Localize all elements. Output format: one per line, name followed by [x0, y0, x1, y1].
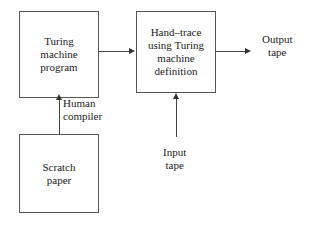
- connector-handtrace-to-output: [216, 51, 246, 52]
- box-line: machine: [20, 48, 98, 61]
- label-line: compiler: [63, 110, 102, 123]
- label-line: Input: [163, 146, 186, 159]
- box-turing-machine-program: Turing machine program: [19, 11, 99, 98]
- arrow-right-icon: [245, 48, 251, 54]
- arrow-right-icon: [129, 48, 135, 54]
- arrow-up-icon: [56, 94, 62, 100]
- box-scratch-paper-text: Scratch paper: [20, 161, 98, 187]
- box-turing-machine-program-text: Turing machine program: [20, 35, 98, 74]
- label-human-compiler: Human compiler: [63, 97, 102, 123]
- connector-scratch-to-program: [59, 98, 60, 134]
- label-line: Output: [262, 33, 293, 46]
- box-hand-trace: Hand–trace using Turing machine definiti…: [136, 11, 216, 93]
- box-line: Turing: [20, 35, 98, 48]
- box-line: machine: [137, 52, 215, 65]
- label-line: tape: [262, 46, 293, 59]
- box-line: Scratch: [20, 161, 98, 174]
- diagram-canvas: Turing machine program Hand–trace using …: [0, 0, 315, 225]
- box-line: program: [20, 61, 98, 74]
- label-line: tape: [163, 159, 186, 172]
- connector-program-to-handtrace: [99, 51, 130, 52]
- box-hand-trace-text: Hand–trace using Turing machine definiti…: [137, 26, 215, 78]
- box-line: paper: [20, 174, 98, 187]
- label-line: Human: [63, 97, 102, 110]
- label-input-tape: Input tape: [163, 146, 186, 172]
- arrow-up-icon: [173, 93, 179, 99]
- label-output-tape: Output tape: [262, 33, 293, 59]
- box-line: definition: [137, 65, 215, 78]
- box-line: using Turing: [137, 39, 215, 52]
- box-line: Hand–trace: [137, 26, 215, 39]
- box-scratch-paper: Scratch paper: [19, 134, 99, 213]
- connector-inputtape-to-handtrace: [176, 97, 177, 137]
